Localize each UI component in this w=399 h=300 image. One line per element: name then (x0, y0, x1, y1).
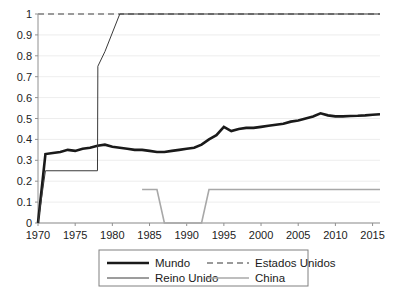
y-tick-label: 0.3 (17, 154, 32, 166)
y-tick-label: 1 (26, 8, 32, 20)
x-tick-label: 2010 (323, 229, 347, 241)
y-tick-label: 0.1 (17, 196, 32, 208)
chart-legend: MundoEstados UnidosReino UnidoChina (99, 250, 336, 286)
y-tick-label: 0 (26, 217, 32, 229)
line-chart: 00.10.20.30.40.50.60.70.80.91 1970197519… (0, 0, 399, 300)
x-tick-label: 1980 (100, 229, 124, 241)
x-tick-label: 1985 (137, 229, 161, 241)
y-tick-label: 0.8 (17, 50, 32, 62)
y-tick-label: 0.2 (17, 175, 32, 187)
legend-label-mundo: Mundo (155, 257, 190, 269)
x-tick-label: 2015 (360, 229, 384, 241)
x-tick-label: 1970 (26, 229, 50, 241)
y-axis-tick-labels: 00.10.20.30.40.50.60.70.80.91 (17, 8, 32, 229)
y-tick-label: 0.5 (17, 113, 32, 125)
y-tick-label: 0.6 (17, 92, 32, 104)
legend-label-estados-unidos: Estados Unidos (255, 257, 336, 269)
y-tick-label: 0.9 (17, 29, 32, 41)
x-tick-label: 2000 (249, 229, 273, 241)
x-tick-label: 1995 (212, 229, 236, 241)
series-line-mundo (38, 113, 380, 223)
series-line-china (142, 190, 380, 223)
y-tick-label: 0.4 (17, 133, 32, 145)
x-tick-label: 1975 (63, 229, 87, 241)
legend-label-china: China (255, 272, 286, 284)
y-tick-label: 0.7 (17, 71, 32, 83)
chart-container: 00.10.20.30.40.50.60.70.80.91 1970197519… (0, 0, 399, 300)
x-tick-label: 1990 (174, 229, 198, 241)
x-axis-tick-labels: 1970197519801985199019952000200520102015 (26, 229, 385, 241)
x-tick-label: 2005 (286, 229, 310, 241)
